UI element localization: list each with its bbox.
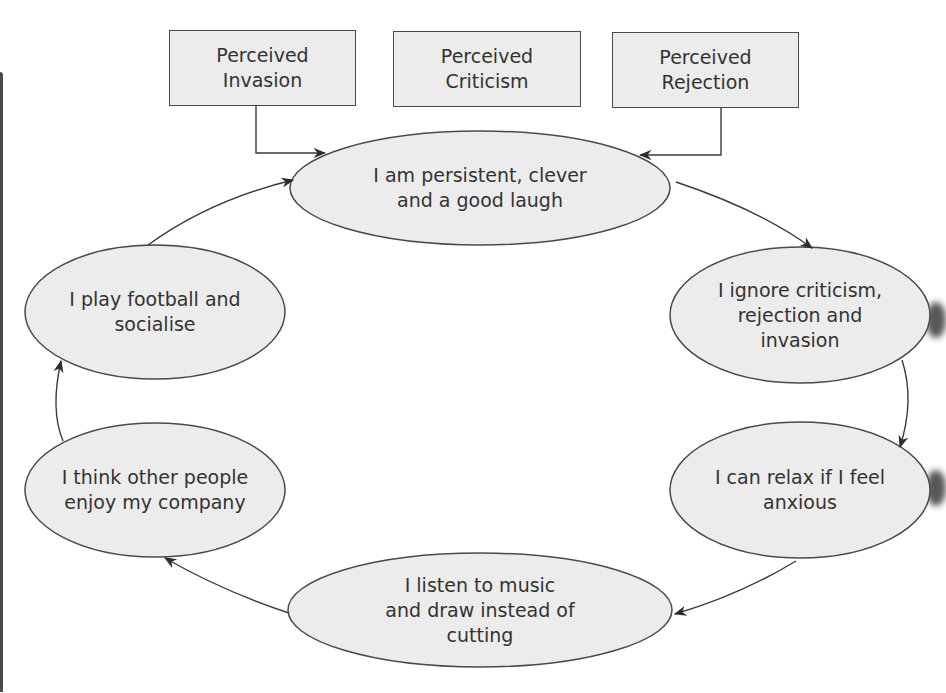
node-enjoy-label: I think other people enjoy my company: [35, 440, 275, 540]
input-box-perceived-criticism: Perceived Criticism: [393, 31, 581, 107]
arrow-core-to-ignore: [676, 182, 812, 248]
node-core-label: I am persistent, clever and a good laugh: [300, 140, 660, 236]
arrow-music-to-enjoy: [165, 558, 289, 613]
input-box-perceived-invasion: Perceived Invasion: [169, 30, 356, 106]
node-music-label: I listen to music and draw instead of cu…: [300, 558, 660, 662]
node-relax-label: I can relax if I feel anxious: [680, 440, 920, 540]
node-ignore-label: I ignore criticism, rejection and invasi…: [680, 256, 920, 374]
arrow-football-to-core: [148, 180, 293, 245]
arrow-enjoy-to-football: [56, 361, 63, 441]
arrow-relax-to-music: [675, 561, 796, 614]
input-box-perceived-rejection: Perceived Rejection: [612, 32, 799, 108]
node-football-label: I play football and socialise: [35, 262, 275, 362]
